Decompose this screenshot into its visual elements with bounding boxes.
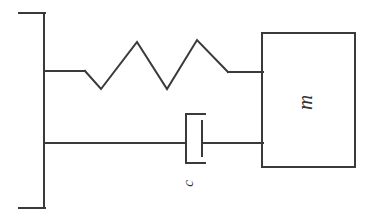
mass-label: m <box>295 95 316 110</box>
spring-element <box>44 40 263 89</box>
mass-spring-damper-figure: m c <box>0 0 373 219</box>
spring-coil-zigzag <box>85 40 228 89</box>
damping-coefficient-label: c <box>181 180 196 187</box>
damper-element <box>44 114 263 163</box>
wall-support <box>19 13 45 208</box>
